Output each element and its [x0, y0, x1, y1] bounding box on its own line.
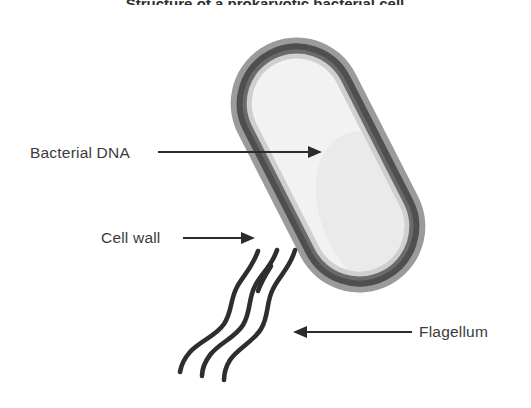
- figure-title-text: Structure of a prokaryotic bacterial cel…: [126, 0, 404, 12]
- bacterial-cell-diagram: Structure of a prokaryotic bacterial cel…: [0, 0, 531, 408]
- ribosome-dot: [378, 67, 384, 73]
- diagram-canvas: Structure of a prokaryotic bacterial cel…: [0, 0, 531, 408]
- flagella-bundle: [180, 250, 295, 380]
- ribosome-dot: [234, 189, 240, 195]
- arrow-head-cell-wall: [241, 232, 255, 244]
- ribosome-dot: [401, 137, 407, 143]
- label-bacterial-dna: Bacterial DNA: [30, 144, 130, 161]
- ribosome-dot: [285, 239, 291, 245]
- ribosome-dot: [243, 159, 249, 165]
- flagellum-strand-3: [224, 250, 295, 380]
- ribosome-dot: [265, 201, 271, 207]
- ribosome-dot: [389, 101, 395, 107]
- ribosome-dot: [346, 55, 352, 61]
- label-cell-wall: Cell wall: [101, 229, 161, 246]
- ribosome-dot: [255, 229, 261, 235]
- ribosome-dot: [415, 175, 421, 181]
- label-flagellum: Flagellum: [419, 323, 488, 340]
- arrow-head-flagellum: [293, 326, 307, 338]
- figure-title: Structure of a prokaryotic bacterial cel…: [126, 0, 404, 12]
- bacterial-cell: [208, 6, 477, 338]
